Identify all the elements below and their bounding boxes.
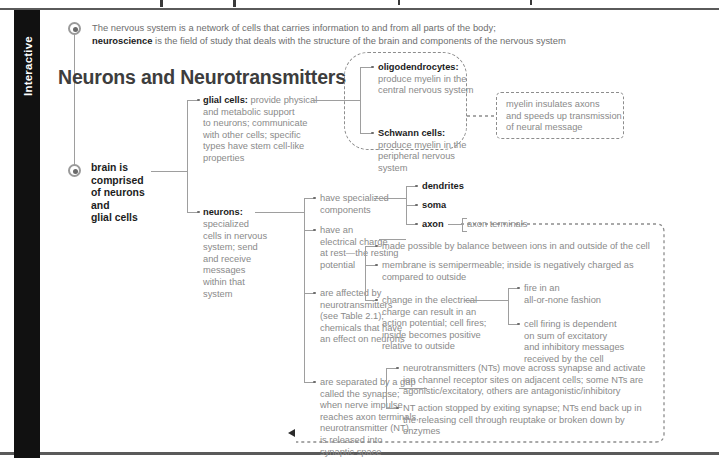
membrane-bullet <box>375 264 378 267</box>
node-brain-root[interactable] <box>68 164 81 177</box>
oligodendrocytes-text: oligodendrocytes:produce myelin in the c… <box>378 62 478 97</box>
node-nervous-system[interactable] <box>68 22 81 35</box>
action-potential-text: change in the electrical charge can resu… <box>382 295 502 353</box>
balance-text: made possible by balance between ions in… <box>382 241 682 253</box>
interactive-concept-map-page: Interactive The nervous system is a netw… <box>0 0 719 467</box>
charge-bullet <box>313 229 316 232</box>
neurons-text: specialized cells in nervous system; sen… <box>203 219 277 300</box>
nt-stopped-text: NT action stopped by exiting synapse; NT… <box>403 403 665 438</box>
cell-firing-text: cell firing is dependent on sum of excit… <box>524 319 654 365</box>
neurons-bullet <box>197 211 200 214</box>
schwann-cells-text: Schwann cells:produce myelin in the peri… <box>378 128 478 174</box>
soma-bullet <box>415 204 418 207</box>
nts-move-text: neurotransmitters (NTs) move across syna… <box>403 363 675 398</box>
page-title: Neurons and Neurotransmitters <box>58 66 346 89</box>
dendrites-label: dendrites <box>422 181 464 193</box>
glial-bullet <box>197 99 200 102</box>
lead-paragraph: The nervous system is a network of cells… <box>92 21 662 47</box>
balance-bullet <box>375 245 378 248</box>
soma-label: soma <box>422 200 446 212</box>
charge-children-spine <box>365 246 366 300</box>
synapse-arrowhead <box>288 429 295 437</box>
cell-firing-bullet <box>517 323 520 326</box>
synapse-bullet <box>313 381 316 384</box>
neurotransmitters-bullet <box>313 292 316 295</box>
dendrites-bullet <box>415 185 418 188</box>
nt-stopped-bullet <box>396 407 399 410</box>
action-to-children-line <box>464 300 508 301</box>
action-potential-bullet <box>375 299 378 302</box>
fire-bullet <box>517 287 520 290</box>
neurons-to-children-line <box>255 212 304 213</box>
components-bullet <box>313 197 316 200</box>
axon-terminals-label: axon terminals <box>467 219 527 231</box>
interactive-tab-label: Interactive <box>22 0 34 156</box>
fire-text: fire in an all-or-none fashion <box>524 283 634 306</box>
root-spine <box>187 100 188 212</box>
axon-bullet <box>415 223 418 226</box>
components-text: have specialized components <box>320 193 406 216</box>
axon-label: axon <box>422 219 444 231</box>
clipped-text-fragment <box>233 0 236 7</box>
root-connector <box>151 171 187 172</box>
neurons-children-spine <box>304 198 305 382</box>
charge-to-children-line <box>379 239 406 240</box>
axon-terminal-bracket <box>462 218 463 231</box>
clipped-text-fragment <box>530 0 532 5</box>
nts-move-bullet <box>396 367 399 370</box>
clipped-text-fragment <box>398 0 400 5</box>
synapse-children-spine <box>386 368 387 408</box>
components-to-parts-line <box>374 198 406 199</box>
axon-terminal-bracket-bottom <box>462 231 467 232</box>
diagram-canvas: The nervous system is a network of cells… <box>44 10 719 452</box>
firing-spine <box>508 288 509 324</box>
myelin-note-text: myelin insulates axons and speeds up tra… <box>506 99 622 134</box>
interactive-tab[interactable]: Interactive <box>14 10 40 458</box>
glial-cells-text: glial cells: provide physical and metabo… <box>203 95 323 165</box>
trunk-line-top <box>74 35 75 170</box>
axon-terminal-connector <box>448 224 462 225</box>
membrane-text: membrane is semipermeable; inside is neg… <box>382 260 672 283</box>
clipped-text-fragment <box>160 0 163 7</box>
